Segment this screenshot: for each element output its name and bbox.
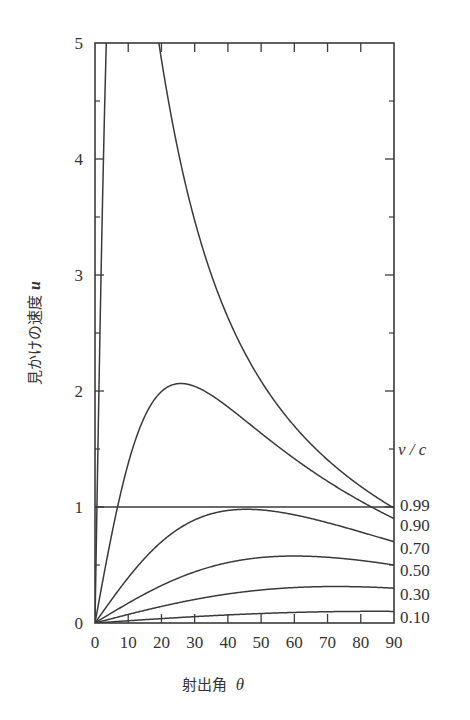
y-axis-symbol: u	[26, 281, 43, 290]
y-tick-label: 5	[75, 34, 84, 53]
series-curves	[95, 0, 394, 623]
x-tick-label: 70	[319, 633, 336, 652]
series-label-0-99: 0.99	[400, 496, 430, 515]
x-tick-label: 40	[219, 633, 236, 652]
legend-title: v / c	[398, 440, 427, 459]
y-tick-label: 2	[75, 382, 84, 401]
x-axis-symbol: θ	[236, 675, 244, 694]
x-axis-ticks	[128, 43, 361, 623]
y-axis-ticks	[95, 101, 394, 565]
series-label-0-70: 0.70	[400, 539, 430, 558]
curve-beta-0-99	[95, 0, 394, 623]
x-tick-label: 10	[120, 633, 137, 652]
x-axis-title: 射出角 θ	[182, 675, 244, 694]
x-tick-label: 80	[352, 633, 369, 652]
series-label-0-90: 0.90	[400, 516, 430, 535]
curve-beta-0-10	[95, 611, 394, 623]
y-tick-label: 4	[75, 150, 84, 169]
x-tick-label: 30	[186, 633, 203, 652]
series-label-0-10: 0.10	[400, 608, 430, 627]
x-tick-label: 0	[91, 633, 100, 652]
y-tick-label: 3	[75, 266, 84, 285]
x-axis-tick-labels: 0102030405060708090	[91, 633, 403, 652]
curve-beta-0-30	[95, 587, 394, 623]
x-tick-label: 50	[253, 633, 270, 652]
y-axis-title: 見かけの速度 u	[26, 281, 44, 385]
y-tick-label: 1	[75, 498, 84, 517]
x-tick-label: 20	[153, 633, 170, 652]
series-label-0-30: 0.30	[400, 585, 430, 604]
curve-beta-0-50	[95, 556, 394, 623]
y-axis-title-text: 見かけの速度	[26, 295, 44, 385]
plot-frame	[95, 43, 394, 623]
curve-beta-0-70	[95, 509, 394, 623]
apparent-velocity-chart: 0102030405060708090 012345 0.990.900.700…	[0, 0, 470, 720]
series-labels: 0.990.900.700.500.300.10	[400, 496, 430, 627]
y-axis-tick-labels: 012345	[75, 34, 84, 633]
x-tick-label: 90	[386, 633, 403, 652]
x-tick-label: 60	[286, 633, 303, 652]
series-label-0-50: 0.50	[400, 561, 430, 580]
x-axis-title-text: 射出角	[182, 676, 227, 694]
y-tick-label: 0	[75, 614, 84, 633]
